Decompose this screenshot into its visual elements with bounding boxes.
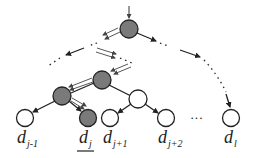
root-node [120,20,138,38]
leaf-node-dl [223,110,240,127]
svg-text:l: l [234,138,237,149]
leaf-labels: d j-1 d j d j+1 d j+2 d l [17,127,237,151]
internal-node [129,90,147,108]
svg-text:d: d [224,127,234,147]
leaf-node-dj-1 [17,110,34,127]
leaf-node-dj+2 [158,110,175,127]
svg-text:d: d [79,127,89,147]
svg-text:j-1: j-1 [25,138,38,149]
leaf-node-dj+1 [102,110,119,127]
svg-text:d: d [17,127,27,147]
svg-text:j+1: j+1 [111,138,128,149]
leaf-node-dj [80,110,97,127]
search-path-arrows [69,28,131,109]
svg-text:d: d [103,127,113,147]
leaf-ellipsis: ··· [190,110,203,125]
svg-text:j+2: j+2 [166,138,183,149]
svg-text:d: d [158,127,168,147]
internal-node-visited [53,87,71,105]
tree-diagram: ··· d j-1 d j d j+1 d j+2 d l [0,0,253,158]
internal-node-visited [93,71,111,89]
